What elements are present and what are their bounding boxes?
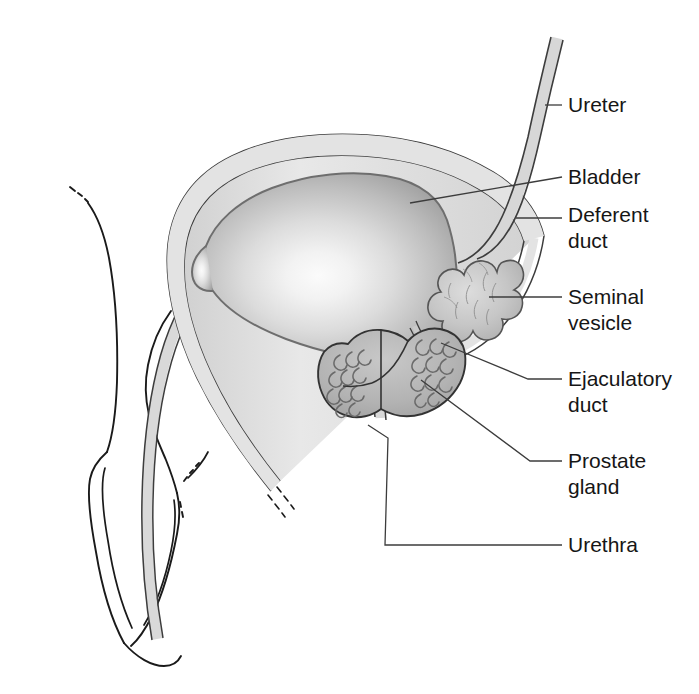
label-seminal-vesicle-line2: vesicle — [568, 311, 632, 334]
anatomy-illustration: Ureter Bladder Deferent duct Seminal ves… — [0, 0, 699, 694]
ventral-dotted-terminus — [184, 463, 199, 481]
label-prostate-gland-line1: Prostate — [568, 449, 646, 472]
urethra-leader — [368, 425, 562, 545]
label-deferent-duct-line1: Deferent — [568, 203, 649, 226]
label-prostate-gland-line2: gland — [568, 475, 619, 498]
penis-dotted-terminus — [70, 187, 88, 202]
anatomy-diagram: Ureter Bladder Deferent duct Seminal ves… — [0, 0, 699, 694]
label-ejaculatory-duct-line2: duct — [568, 393, 608, 416]
label-bladder-line1: Bladder — [568, 165, 640, 188]
label-ejaculatory-duct-line1: Ejaculatory — [568, 367, 672, 390]
label-deferent-duct-line2: duct — [568, 229, 608, 252]
labels: Ureter Bladder Deferent duct Seminal ves… — [568, 93, 672, 556]
label-seminal-vesicle-line1: Seminal — [568, 285, 644, 308]
deferent-duct-dotted-terminus — [268, 495, 285, 517]
label-ureter-line1: Ureter — [568, 93, 626, 116]
label-urethra-line1: Urethra — [568, 533, 638, 556]
